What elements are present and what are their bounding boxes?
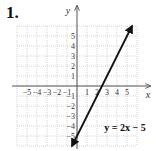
y-tick-label: −2 [66,102,75,111]
x-tick-label: 1 [85,88,89,97]
y-tick-label: 4 [71,42,75,51]
x-tick-label: −4 [33,88,42,97]
x-tick-label: 4 [115,88,119,97]
equation-label: y = 2x − 5 [104,122,145,133]
y-tick-label: −5 [66,132,75,141]
x-tick-label: 5 [125,88,129,97]
y-tick-label: −4 [66,122,75,131]
y-axis-label: y [65,5,71,16]
x-tick-label: −2 [53,88,62,97]
y-tick-label: −1 [66,92,75,101]
line-graph: xy−5−4−3−2−11234554321−1−2−3−4−5y = 2x −… [0,0,156,151]
y-tick-label: 2 [71,62,75,71]
y-tick-label: −3 [66,112,75,121]
x-tick-label: 3 [105,88,109,97]
y-tick-label: 1 [71,72,75,81]
x-tick-label: −3 [43,88,52,97]
y-tick-label: 5 [71,32,75,41]
x-axis-label: x [145,89,151,100]
x-tick-label: −5 [23,88,32,97]
y-tick-label: 3 [71,52,75,61]
